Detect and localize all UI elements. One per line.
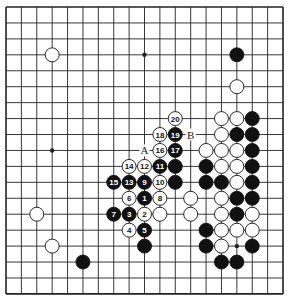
move-number: 6 [127,194,132,203]
move-number: 17 [171,146,180,155]
move-number: 20 [171,115,180,124]
move-number: 4 [127,226,132,235]
black-stone [214,175,228,189]
black-stone [245,159,259,173]
black-stone [245,175,259,189]
white-stone [45,48,59,62]
move-number: 7 [112,210,117,219]
white-stone [214,128,228,142]
black-stone [245,128,259,142]
black-stone [245,239,259,253]
white-stone [45,239,59,253]
white-stone [214,159,228,173]
white-stone [230,175,244,189]
point-label: A [141,144,149,156]
move-number: 5 [142,226,147,235]
star-point [235,244,239,248]
white-stone [230,159,244,173]
move-number: 19 [171,131,180,140]
white-stone [184,191,198,205]
black-stone [199,159,213,173]
move-number: 12 [140,162,149,171]
white-stone [230,223,244,237]
black-stone [168,159,182,173]
go-board: 1234567891011121314151617181920 AB [0,0,290,302]
move-number: 8 [158,194,163,203]
white-stone [230,112,244,126]
move-number: 10 [155,178,164,187]
black-stone [230,48,244,62]
black-stone [230,128,244,142]
white-stone [30,207,44,221]
white-stone [214,223,228,237]
move-number: 3 [127,210,132,219]
move-number: 15 [109,178,118,187]
labels-layer: AB [140,129,196,157]
white-stone [214,112,228,126]
move-number: 16 [155,146,164,155]
black-stone [245,191,259,205]
white-stone [199,143,213,157]
white-stone [245,207,259,221]
white-stone [245,223,259,237]
move-number: 9 [142,178,147,187]
black-stone [245,143,259,157]
move-number: 11 [156,162,165,171]
white-stone [230,80,244,94]
move-number: 14 [125,162,134,171]
move-number: 2 [142,210,147,219]
black-stone [199,223,213,237]
move-number: 18 [155,131,164,140]
star-point [50,148,54,152]
point-label: B [187,129,194,141]
black-stone [214,255,228,269]
black-stone [199,239,213,253]
white-stone [153,207,167,221]
star-point [142,53,146,57]
white-stone [214,143,228,157]
white-stone [214,207,228,221]
black-stone [199,175,213,189]
move-number: 1 [142,194,147,203]
black-stone [76,255,90,269]
black-stone [245,112,259,126]
black-stone [168,175,182,189]
black-stone [138,239,152,253]
white-stone [214,239,228,253]
black-stone [230,255,244,269]
move-number: 13 [125,178,134,187]
white-stone [214,191,228,205]
white-stone [184,207,198,221]
black-stone [230,191,244,205]
white-stone [230,143,244,157]
black-stone [230,207,244,221]
